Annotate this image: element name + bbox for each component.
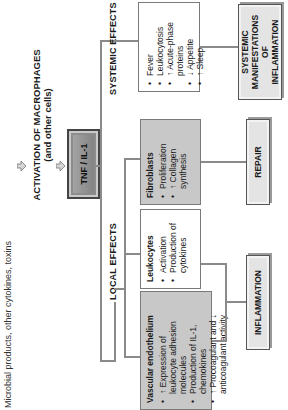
- connector-line: [124, 356, 140, 358]
- down-arrow-icon: [56, 161, 65, 171]
- connector-line: [225, 301, 246, 303]
- list-item: Fever: [145, 9, 155, 85]
- box-title: Vascular endothelium: [145, 298, 155, 403]
- connector-line: [212, 340, 226, 342]
- inflammation-outcome-box: INFLAMMATION: [246, 255, 270, 350]
- list-item: Production of IL-1, chemokines: [188, 298, 208, 403]
- systemic-effects-box: Fever Leukocytosis ↑ Acute-phase protein…: [138, 2, 200, 92]
- fibroblasts-box: Fibroblasts Proliferation ↑ Collagen syn…: [140, 119, 201, 205]
- activation-title: ACTIVATION OF MACROPHAGES: [31, 35, 42, 215]
- list-item: ↓ Appetite: [185, 9, 195, 85]
- outcome-label: SYSTEMIC MANIFESTATIONS OF INFLAMMATION: [240, 15, 280, 89]
- down-arrow-icon: [17, 161, 26, 171]
- connector-line: [124, 158, 140, 160]
- activation-subtitle: (and other cells): [42, 35, 53, 215]
- list-item: ↑ Expression of leukocyte adhesion molec…: [158, 298, 188, 403]
- connector-line: [114, 288, 126, 290]
- vascular-endothelium-box: Vascular endothelium ↑ Expression of leu…: [140, 291, 212, 410]
- mediator-box: TNF / IL-1: [67, 129, 100, 199]
- trunk-line: [100, 40, 102, 362]
- list-item: Production of cytokines: [168, 216, 188, 282]
- list-item: ↑ Collagen synthesis: [168, 126, 188, 198]
- list-item: Leukocytosis: [155, 9, 165, 85]
- outcome-label: REPAIR: [253, 146, 263, 178]
- mediator-label: TNF / IL-1: [79, 144, 89, 185]
- local-bus-line: [124, 158, 126, 358]
- outcome-label: INFLAMMATION: [253, 270, 263, 335]
- list-item: Proliferation: [158, 126, 168, 198]
- connector-line: [124, 253, 140, 255]
- stimulus-text: Microbial products, other cytokines, tox…: [3, 241, 13, 408]
- connector-line: [201, 263, 226, 265]
- activation-heading: ACTIVATION OF MACROPHAGES (and other cel…: [31, 35, 53, 215]
- systemic-effects-label: SYSTEMIC EFFECTS: [108, 2, 118, 95]
- connector-line: [201, 161, 246, 163]
- list-item: ↑ Acute-phase proteins: [165, 9, 185, 85]
- connector-line: [200, 46, 238, 48]
- connector-line: [114, 302, 116, 362]
- leukocytes-box: Leukocytes Activation Production of cyto…: [140, 209, 201, 289]
- diagram-canvas: Microbial products, other cytokines, tox…: [0, 0, 288, 410]
- repair-outcome-box: REPAIR: [246, 119, 270, 205]
- systemic-manifestations-box: SYSTEMIC MANIFESTATIONS OF INFLAMMATION: [238, 4, 282, 100]
- connector-line: [114, 40, 138, 42]
- box-title: Fibroblasts: [145, 126, 155, 198]
- box-title: Leukocytes: [145, 216, 155, 282]
- list-item: Activation: [158, 216, 168, 282]
